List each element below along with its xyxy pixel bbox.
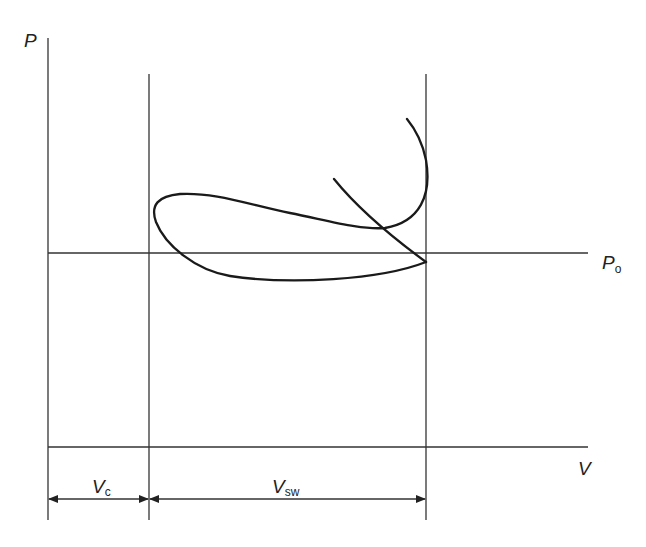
clearance-volume-label: Vc [92,476,111,499]
volume-axis-label: V [578,458,593,479]
reference-pressure-label: Po [602,252,622,276]
pv-loop-curve [154,119,427,280]
pressure-axis-label: P [24,30,37,51]
pv-diagram: P V Po Vc Vsw [0,0,646,547]
swept-volume-label: Vsw [272,476,300,499]
expansion-curve [334,179,426,262]
